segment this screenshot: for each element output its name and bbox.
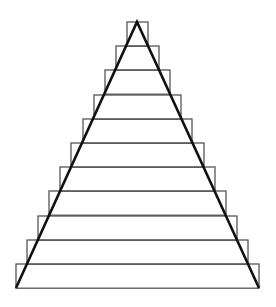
- rectangle-row-7: [60, 167, 215, 191]
- diagram-canvas: [0, 0, 276, 307]
- rectangle-row-10: [27, 240, 248, 264]
- rectangle-row-9: [38, 216, 237, 240]
- rectangle-row-8: [49, 191, 226, 215]
- rectangle-row-5: [83, 119, 192, 143]
- triangle-outline: [16, 22, 259, 288]
- triangle-rectangles-diagram: [0, 0, 276, 307]
- rectangle-row-4: [94, 95, 181, 119]
- rectangle-row-6: [71, 143, 204, 167]
- approximating-rectangles: [16, 22, 259, 288]
- rectangle-row-11: [16, 264, 259, 288]
